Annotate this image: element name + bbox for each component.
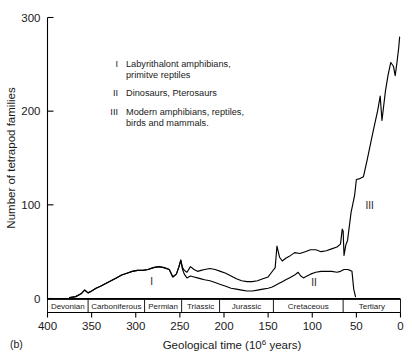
x-tick-label: 200 — [214, 320, 233, 332]
plot-annotation-II: II — [311, 277, 317, 288]
figure-panel-b: 0100200300Number of tetrapod familiesDev… — [0, 0, 412, 355]
period-label-jurassic: Jurassic — [232, 302, 261, 311]
x-tick-label: 150 — [259, 320, 278, 332]
period-label-devonian: Devonian — [51, 302, 85, 311]
x-tick-label: 350 — [82, 320, 101, 332]
period-label-triassic: Triassic — [187, 302, 214, 311]
legend-numeral-II: II — [113, 88, 118, 98]
legend-label-III-line1: Modern amphibians, reptiles, — [126, 107, 244, 117]
x-tick-label: 400 — [38, 320, 57, 332]
plot-annotation-III: III — [365, 200, 373, 211]
y-tick-label: 200 — [21, 105, 40, 117]
legend-label-I-line1: Labyrithalont amphibians, — [126, 59, 231, 69]
plot-annotation-I: I — [150, 276, 153, 287]
x-tick-label: 250 — [170, 320, 189, 332]
legend-numeral-I: I — [115, 59, 118, 69]
x-tick-label: 300 — [126, 320, 145, 332]
legend-label-I-line2: primitve reptiles — [126, 70, 191, 80]
x-tick-label: 100 — [303, 320, 322, 332]
y-axis-title: Number of tetrapod families — [5, 87, 17, 229]
panel-label: (b) — [10, 338, 23, 350]
tetrapod-families-chart: 0100200300Number of tetrapod familiesDev… — [0, 0, 412, 355]
y-tick-label: 100 — [21, 199, 40, 211]
x-axis-title: Geological time (106 years) — [163, 338, 302, 351]
legend-label-III-line2: birds and mammals. — [126, 118, 209, 128]
series-line-0 — [70, 37, 400, 297]
x-tick-label: 50 — [350, 320, 363, 332]
legend-numeral-III: III — [110, 107, 118, 117]
x-tick-label: 0 — [397, 320, 403, 332]
y-tick-label: 300 — [21, 12, 40, 24]
legend-label-II-line1: Dinosaurs, Pterosaurs — [126, 88, 217, 98]
y-tick-label: 0 — [34, 293, 40, 305]
period-label-carboniferous: Carboniferous — [91, 302, 141, 311]
period-label-tertiary: Tertiary — [359, 302, 385, 311]
period-label-cretaceous: Cretaceous — [288, 302, 329, 311]
period-label-permian: Permian — [148, 302, 178, 311]
